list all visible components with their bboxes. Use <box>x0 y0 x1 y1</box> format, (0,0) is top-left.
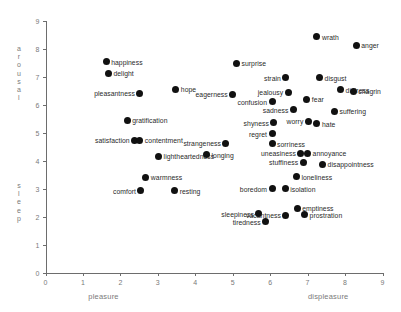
data-point[interactable] <box>229 91 236 98</box>
x-tick-mark <box>308 273 309 276</box>
y-tick-mark <box>43 133 46 134</box>
data-point[interactable] <box>313 120 320 127</box>
data-point-label: strangeness <box>183 140 221 147</box>
data-point-label: pleasantness <box>94 90 135 97</box>
data-point[interactable] <box>233 60 240 67</box>
y-tick-mark <box>43 21 46 22</box>
y-axis-label-arousal: arousal <box>15 45 24 102</box>
y-tick-label: 0 <box>30 269 40 276</box>
data-point-label: prostration <box>310 211 343 218</box>
data-point[interactable] <box>136 90 143 97</box>
data-point[interactable] <box>105 70 112 77</box>
y-tick-mark <box>43 49 46 50</box>
data-point[interactable] <box>353 42 360 49</box>
data-point-label: jealousy <box>258 89 283 96</box>
x-axis-label-displeasure: displeasure <box>308 292 349 301</box>
data-point[interactable] <box>269 130 276 137</box>
data-point-label: fear <box>312 96 324 103</box>
data-point-label: suffering <box>340 108 366 115</box>
x-tick-mark <box>83 273 84 276</box>
y-tick-label: 8 <box>30 45 40 52</box>
data-point[interactable] <box>290 106 297 113</box>
data-point[interactable] <box>282 185 289 192</box>
data-point[interactable] <box>172 86 179 93</box>
data-point-label: anger <box>361 42 379 49</box>
data-point-label: surprise <box>241 60 266 67</box>
data-point-label: boredom <box>240 185 267 192</box>
data-point[interactable] <box>103 58 110 65</box>
data-point[interactable] <box>331 108 338 115</box>
x-tick-label: 3 <box>156 279 160 286</box>
data-point-label: confusion <box>237 98 267 105</box>
data-point[interactable] <box>269 185 276 192</box>
data-point-label: uneasiness <box>261 150 296 157</box>
data-point[interactable] <box>269 98 276 105</box>
y-tick-label: 9 <box>30 17 40 24</box>
data-point-label: resting <box>180 187 201 194</box>
data-point[interactable] <box>124 117 131 124</box>
data-point[interactable] <box>301 211 308 218</box>
data-point[interactable] <box>313 33 320 40</box>
data-point-label: annoyance <box>313 150 347 157</box>
data-point-label: disgust <box>325 74 347 81</box>
y-tick-label: 5 <box>30 129 40 136</box>
x-tick-label: 0 <box>44 279 48 286</box>
data-point-label: shyness <box>244 119 269 126</box>
y-axis-line <box>46 21 47 273</box>
data-point[interactable] <box>303 96 310 103</box>
data-point-label: regret <box>249 130 267 137</box>
data-point[interactable] <box>293 173 300 180</box>
x-tick-label: 7 <box>306 279 310 286</box>
data-point[interactable] <box>136 137 143 144</box>
y-tick-label: 3 <box>30 185 40 192</box>
data-point-label: warmness <box>151 174 182 181</box>
x-tick-mark <box>383 273 384 276</box>
data-point[interactable] <box>282 74 289 81</box>
data-point-label: sadness <box>263 106 289 113</box>
y-tick-label: 7 <box>30 73 40 80</box>
data-point[interactable] <box>319 161 326 168</box>
data-point[interactable] <box>300 159 307 166</box>
data-point[interactable] <box>294 205 301 212</box>
data-point[interactable] <box>316 74 323 81</box>
data-point[interactable] <box>305 118 312 125</box>
data-point[interactable] <box>142 174 149 181</box>
x-tick-label: 1 <box>81 279 85 286</box>
data-point-label: comfort <box>113 187 136 194</box>
x-tick-label: 5 <box>231 279 235 286</box>
data-point[interactable] <box>269 140 276 147</box>
x-tick-mark <box>345 273 346 276</box>
data-point-label: eagerness <box>196 91 228 98</box>
data-point[interactable] <box>285 89 292 96</box>
data-point[interactable] <box>262 218 269 225</box>
data-point[interactable] <box>350 88 357 95</box>
y-tick-mark <box>43 245 46 246</box>
data-point[interactable] <box>282 212 289 219</box>
scatter-plot: 0123456789 0123456789 pleasure displeasu… <box>0 0 401 312</box>
data-point-label: disappointness <box>328 161 374 168</box>
data-point-label: isolation <box>290 185 315 192</box>
y-tick-mark <box>43 189 46 190</box>
x-tick-mark <box>233 273 234 276</box>
data-point[interactable] <box>155 153 162 160</box>
x-tick-mark <box>120 273 121 276</box>
data-point[interactable] <box>171 187 178 194</box>
y-tick-label: 2 <box>30 213 40 220</box>
x-tick-label: 6 <box>268 279 272 286</box>
data-point[interactable] <box>270 119 277 126</box>
x-tick-label: 4 <box>193 279 197 286</box>
data-point-label: satisfaction <box>95 137 130 144</box>
data-point-label: sleepiness <box>221 210 254 217</box>
y-tick-label: 6 <box>30 101 40 108</box>
data-point[interactable] <box>137 187 144 194</box>
data-point[interactable] <box>222 140 229 147</box>
data-point-label: stuffiness <box>269 159 298 166</box>
data-point-label: worry <box>286 118 303 125</box>
data-point[interactable] <box>337 86 344 93</box>
y-tick-mark <box>43 161 46 162</box>
x-axis-line <box>46 273 383 274</box>
x-tick-mark <box>195 273 196 276</box>
data-point[interactable] <box>304 150 311 157</box>
data-point-label: tiredness <box>233 218 261 225</box>
x-tick-label: 2 <box>118 279 122 286</box>
